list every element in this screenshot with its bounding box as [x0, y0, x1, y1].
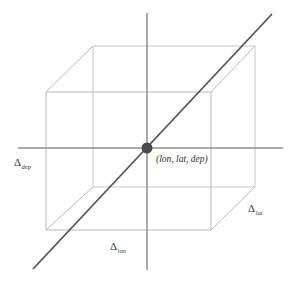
delta-lon-subscript: lon: [118, 247, 126, 254]
cube-wireframe: [46, 46, 255, 230]
delta-lon-label: Δlon: [110, 240, 126, 254]
delta-dep-subscript: dep: [22, 163, 32, 170]
cube-edge-depth-bottom-left: [46, 187, 93, 230]
delta-lon-symbol: Δ: [110, 240, 117, 252]
cube-depth-edges: [46, 46, 255, 230]
delta-lat-subscript: lat: [256, 209, 263, 216]
delta-dep-label: Δdep: [14, 156, 32, 170]
spatial-cube-diagram: (lon, lat, dep) Δdep Δlon Δlat: [0, 0, 293, 282]
delta-dep-symbol: Δ: [14, 156, 21, 168]
axis-lines: [18, 13, 283, 270]
diagonal-axis-line: [33, 14, 272, 269]
cube-edge-depth-top-right: [211, 46, 255, 92]
cube-back-face: [93, 46, 255, 187]
cube-edge-depth-top-left: [46, 46, 93, 92]
center-point-label: (lon, lat, dep): [156, 154, 208, 165]
diagram-canvas: (lon, lat, dep) Δdep Δlon Δlat: [0, 0, 293, 282]
delta-lat-symbol: Δ: [248, 202, 255, 214]
delta-lat-label: Δlat: [248, 202, 263, 216]
center-point-dot: [142, 143, 153, 154]
